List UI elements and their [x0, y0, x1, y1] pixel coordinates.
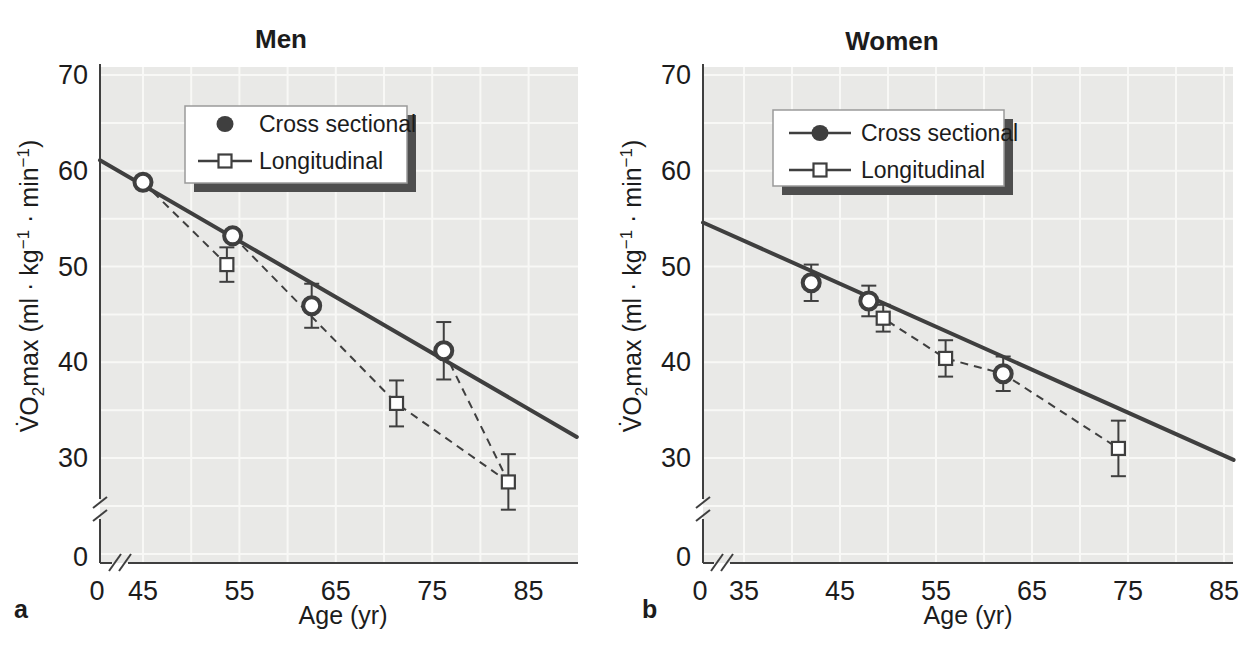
- panel-letter: a: [14, 595, 29, 623]
- y-tick-label: 40: [58, 347, 88, 377]
- longitudinal-point: [220, 258, 233, 271]
- cross-sectional-point: [860, 292, 877, 309]
- x-tick-label: 75: [417, 576, 447, 606]
- vo2max-axis-label: V̇O2max (ml · kg−1 · min−1): [14, 140, 48, 433]
- filled-circle-icon: [217, 116, 234, 132]
- y-tick-label: 60: [58, 156, 88, 186]
- y-tick-label: 30: [58, 443, 88, 473]
- x-tick-label: 75: [1113, 576, 1143, 606]
- panel-women: 706050403000354555657585WomenAge (yr)bV̇…: [617, 26, 1239, 629]
- legend-label: Longitudinal: [259, 148, 383, 174]
- x-tick-label: 35: [729, 576, 759, 606]
- panel-men: 7060504030004555657585MenAge (yr)aV̇O2ma…: [14, 24, 578, 629]
- panel-title: Women: [845, 26, 938, 56]
- y-tick-label: 50: [661, 252, 691, 282]
- x-tick-label: 45: [128, 576, 158, 606]
- cross-sectional-point: [135, 174, 152, 191]
- age-axis-label: Age (yr): [924, 601, 1013, 629]
- legend: Cross sectionalLongitudinal: [773, 110, 1018, 195]
- filled-circle-icon: [812, 125, 829, 141]
- y-tick-label: 0: [73, 542, 88, 572]
- legend-label: Longitudinal: [861, 157, 985, 183]
- cross-sectional-point: [224, 227, 241, 244]
- legend-label: Cross sectional: [259, 111, 416, 137]
- cross-sectional-point: [995, 365, 1012, 382]
- longitudinal-point: [1112, 442, 1125, 455]
- cross-sectional-point: [803, 274, 820, 291]
- y-tick-label: 70: [661, 60, 691, 90]
- panel-title: Men: [255, 24, 307, 54]
- y-tick-label: 0: [676, 542, 691, 572]
- cross-sectional-point: [303, 297, 320, 314]
- y-tick-label: 30: [661, 443, 691, 473]
- open-square-icon: [219, 155, 232, 168]
- y-tick-label: 40: [661, 347, 691, 377]
- x-tick-label: 85: [514, 576, 544, 606]
- y-tick-label: 60: [661, 156, 691, 186]
- x-tick-label: 85: [1209, 576, 1239, 606]
- x-tick-label: 0: [692, 576, 707, 606]
- x-tick-label: 45: [825, 576, 855, 606]
- vo2max-by-age-figure: 7060504030004555657585MenAge (yr)aV̇O2ma…: [0, 0, 1257, 646]
- longitudinal-point: [390, 397, 403, 410]
- x-tick-label: 55: [224, 576, 254, 606]
- age-axis-label: Age (yr): [299, 601, 388, 629]
- legend-label: Cross sectional: [861, 120, 1018, 146]
- open-square-icon: [814, 164, 827, 177]
- cross-sectional-point: [435, 342, 452, 359]
- longitudinal-point: [939, 352, 952, 365]
- legend: Cross sectionalLongitudinal: [185, 106, 416, 192]
- longitudinal-point: [877, 312, 890, 325]
- x-tick-label: 0: [89, 576, 104, 606]
- longitudinal-point: [502, 475, 515, 488]
- panel-letter: b: [642, 595, 657, 623]
- y-tick-label: 50: [58, 252, 88, 282]
- vo2max-by-age-chart: 7060504030004555657585MenAge (yr)aV̇O2ma…: [0, 0, 1257, 646]
- y-tick-label: 70: [58, 60, 88, 90]
- vo2max-axis-label: V̇O2max (ml · kg−1 · min−1): [617, 140, 651, 433]
- x-tick-label: 65: [1017, 576, 1047, 606]
